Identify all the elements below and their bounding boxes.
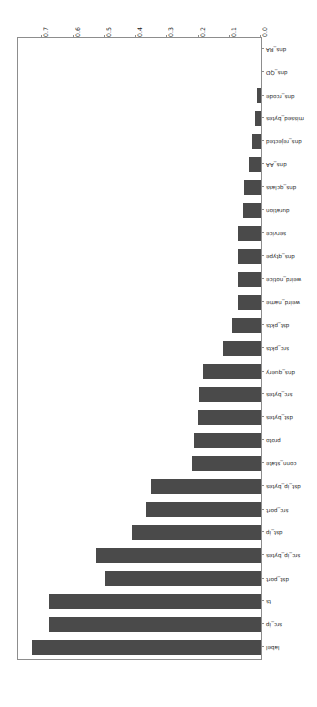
bar-dst_pkts (232, 318, 261, 332)
category-tick (261, 72, 264, 73)
category-label-dns_qclass: dns_qclass (266, 185, 296, 191)
bar-row: dns_rejected (18, 130, 261, 153)
category-label-dns_qtype: dns_qtype (266, 254, 295, 260)
plot-area: labelsrc_iptsdst_portsrc_ip_bytesdst_ips… (17, 37, 262, 660)
category-tick (261, 578, 264, 579)
category-label-service: service (266, 231, 286, 237)
x-tick-label: 0.3 (167, 27, 174, 37)
bar-weird_notice (238, 272, 261, 286)
bar-weird_name (238, 295, 261, 309)
bar-dns_rejected (252, 134, 261, 148)
category-label-dst_bytes: dst_bytes (266, 415, 293, 421)
bar-row: dns_query (18, 360, 261, 383)
bar-row: dns_AA (18, 153, 261, 176)
category-tick (261, 187, 264, 188)
x-tick-label: 0.2 (199, 27, 206, 37)
category-label-duration: duration (266, 208, 290, 214)
bar-row: dst_pkts (18, 314, 261, 337)
bar-src_port (146, 502, 261, 516)
bar-missed_bytes (255, 111, 261, 125)
bar-row: dns_rcode (18, 84, 261, 107)
category-tick (261, 624, 264, 625)
bar-row: dns_QD (18, 61, 261, 84)
category-label-dst_pkts: dst_pkts (266, 323, 289, 329)
bar-dst_port (105, 571, 261, 585)
bar-dst_ip (132, 525, 261, 539)
bar-row: ts (18, 590, 261, 613)
bar-dst_ip_bytes (151, 479, 261, 493)
bar-row: duration (18, 199, 261, 222)
category-tick (261, 440, 264, 441)
category-label-weird_name: weird_name (266, 300, 300, 306)
category-tick (261, 118, 264, 119)
bar-row: dns_RA (18, 38, 261, 61)
bar-row: src_ip (18, 613, 261, 636)
bar-row: src_port (18, 498, 261, 521)
category-tick (261, 325, 264, 326)
category-tick (261, 371, 264, 372)
category-label-conn_state: conn_state (266, 461, 297, 467)
category-label-dns_query: dns_query (266, 369, 295, 375)
bars-layer: labelsrc_iptsdst_portsrc_ip_bytesdst_ips… (18, 38, 261, 659)
category-label-dns_AA: dns_AA (266, 162, 287, 168)
x-axis: 0.00.10.20.30.40.50.60.7 (18, 0, 261, 38)
category-tick (261, 233, 264, 234)
category-tick (261, 647, 264, 648)
category-label-dns_QD: dns_QD (266, 70, 288, 76)
bar-dns_rcode (257, 88, 261, 102)
category-tick (261, 210, 264, 211)
bar-duration (243, 203, 261, 217)
bar-label (32, 640, 261, 654)
bar-row: proto (18, 429, 261, 452)
bar-row: dst_ip (18, 521, 261, 544)
category-label-dst_ip_bytes: dst_ip_bytes (266, 484, 301, 490)
bar-row: dns_qclass (18, 176, 261, 199)
category-tick (261, 348, 264, 349)
bar-service (238, 226, 261, 240)
category-label-dst_port: dst_port (266, 576, 289, 582)
category-label-label: label (266, 645, 280, 651)
category-tick (261, 394, 264, 395)
bar-row: service (18, 222, 261, 245)
bar-row: weird_name (18, 291, 261, 314)
rotated-figure-container: labelsrc_iptsdst_portsrc_ip_bytesdst_ips… (0, 0, 317, 707)
x-tick-label: 0.4 (136, 27, 143, 37)
bar-row: dns_qtype (18, 245, 261, 268)
bar-row: dst_bytes (18, 406, 261, 429)
bar-row: src_ip_bytes (18, 544, 261, 567)
category-label-src_pkts: src_pkts (266, 346, 289, 352)
bar-proto (194, 433, 261, 447)
category-tick (261, 302, 264, 303)
category-tick (261, 256, 264, 257)
category-label-ts: ts (266, 599, 271, 605)
bar-row: dst_ip_bytes (18, 475, 261, 498)
bar-src_bytes (199, 387, 261, 401)
bar-ts (50, 594, 262, 608)
category-tick (261, 164, 264, 165)
category-tick (261, 486, 264, 487)
bar-row: weird_notice (18, 268, 261, 291)
category-label-src_ip_bytes: src_ip_bytes (266, 553, 300, 559)
bar-row: label (18, 636, 261, 659)
bar-dns_AA (249, 157, 261, 171)
category-label-weird_notice: weird_notice (266, 277, 301, 283)
category-tick (261, 417, 264, 418)
bar-dns_qtype (238, 249, 261, 263)
category-label-dns_rejected: dns_rejected (266, 139, 302, 145)
category-label-dst_ip: dst_ip (266, 530, 283, 536)
category-label-src_port: src_port (266, 507, 288, 513)
feature-importance-bar-chart: labelsrc_iptsdst_portsrc_ip_bytesdst_ips… (0, 0, 317, 707)
bar-row: dst_port (18, 567, 261, 590)
category-label-proto: proto (266, 438, 281, 444)
category-tick (261, 279, 264, 280)
category-label-missed_bytes: missed_bytes (266, 116, 304, 122)
bar-conn_state (192, 456, 261, 470)
bar-row: src_pkts (18, 337, 261, 360)
category-tick (261, 141, 264, 142)
bar-src_ip_bytes (96, 548, 261, 562)
category-label-src_bytes: src_bytes (266, 392, 292, 398)
bar-src_ip (50, 617, 262, 631)
bar-row: conn_state (18, 452, 261, 475)
category-label-dns_rcode: dns_rcode (266, 93, 294, 99)
bar-src_pkts (223, 341, 261, 355)
